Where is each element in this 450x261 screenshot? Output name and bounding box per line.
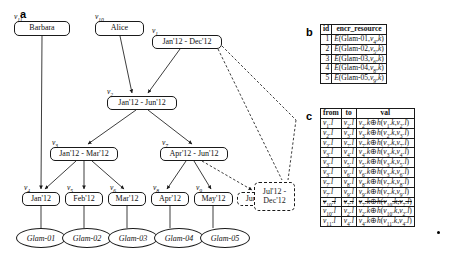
tree-node-v5[interactable]: Feb'12 — [65, 192, 103, 206]
table-row: 5E(Glam-05,v9,k) — [321, 74, 387, 84]
col-header-id: id — [321, 25, 332, 35]
cell-id: 2 — [321, 44, 332, 54]
tree-node-label: Alice — [111, 24, 128, 32]
tree-node-v6[interactable]: Mar'12 — [108, 192, 146, 206]
cell-val: v4.k⊕h(v11.k,v4.l) — [356, 217, 414, 227]
resource-label: Glam-04 — [165, 234, 193, 243]
cell-to: v4.l — [341, 217, 356, 227]
cell-from: v11.l — [321, 217, 342, 227]
tree-node-label: May'12 — [201, 195, 225, 203]
resource-label: Glam-05 — [211, 234, 239, 243]
panel-a-tree: a — [0, 0, 310, 261]
resource-label: Glam-03 — [119, 234, 147, 243]
resource-node-glam-04[interactable]: Glam-04 — [154, 228, 204, 248]
tree-node-vlabel-v11: v11 — [14, 12, 22, 21]
resource-node-glam-01[interactable]: Glam-01 — [16, 228, 66, 248]
tree-node-label: Jan'12 — [31, 195, 51, 203]
cell-encr-resource: E(Glam-05,v9,k) — [332, 74, 386, 84]
tree-node-vlabel-v2: v2 — [107, 87, 113, 96]
table-row: 1E(Glam-01,v4,k) — [321, 34, 387, 44]
tree-node-vlabel-v4: v4 — [24, 183, 30, 192]
tree-node-vlabel-v10: v10 — [95, 12, 104, 21]
resource-node-glam-03[interactable]: Glam-03 — [108, 228, 158, 248]
panel-b-letter: b — [306, 26, 313, 38]
tree-node-vlabel-v8: v8 — [153, 183, 159, 192]
tree-node-label: Jan'12 - Dec'12 — [162, 38, 211, 46]
tree-node-v9[interactable]: May'12 — [194, 192, 233, 206]
tree-node-v2[interactable]: Jan'12 - Jun'12 — [107, 96, 177, 110]
tree-node-v7[interactable]: Apr'12 - Jun'12 — [160, 147, 228, 161]
cell-id: 5 — [321, 74, 332, 84]
tree-node-v1[interactable]: Jan'12 - Dec'12 — [152, 35, 222, 49]
row-marker-bullet — [437, 231, 440, 234]
tree-node-label: Apr'12 - Jun'12 — [169, 150, 218, 158]
resource-label: Glam-01 — [27, 234, 55, 243]
tree-node-vlabel-v1: v1 — [152, 26, 158, 35]
encr-resource-table: id encr_resource 1E(Glam-01,v4,k)2E(Glam… — [320, 24, 387, 84]
tree-node-label: Jul'12 - Dec'12 — [255, 188, 294, 205]
tree-node-barbara[interactable]: Barbara — [14, 21, 70, 36]
tree-node-v8[interactable]: Apr'12 — [151, 192, 189, 206]
table-header-row: id encr_resource — [321, 25, 387, 35]
tree-node-alice[interactable]: Alice — [95, 21, 144, 36]
resource-label: Glam-02 — [73, 234, 101, 243]
tree-node-vlabel-v9: v9 — [196, 183, 202, 192]
resource-node-glam-05[interactable]: Glam-05 — [200, 228, 250, 248]
tree-node-label: Apr'12 — [159, 195, 181, 203]
cell-id: 1 — [321, 34, 332, 44]
tree-node-v3[interactable]: Jan'12 - Mar'12 — [50, 147, 118, 161]
tree-node-vlabel-v5: v5 — [67, 183, 73, 192]
table-row: 2E(Glam-02,v5,k) — [321, 44, 387, 54]
panel-c-letter: c — [306, 110, 312, 122]
token-table: from to val v1.lv2.lv2.k⊕h(v1.k,v2.l)v2.… — [320, 108, 415, 227]
tree-node-vlabel-v3: v3 — [52, 138, 58, 147]
tree-node-vlabel-v7: v7 — [162, 138, 168, 147]
tree-node-label: Jan'12 - Mar'12 — [59, 150, 109, 158]
tree-node-v4[interactable]: Jan'12 — [22, 192, 60, 206]
tree-node-jul-dec12-future[interactable]: Jul'12 - Dec'12 — [254, 182, 295, 211]
tree-node-label: Barbara — [29, 24, 54, 32]
tree-node-label: Jan'12 - Jun'12 — [118, 99, 165, 107]
tree-node-label: Feb'12 — [73, 195, 94, 203]
resource-node-glam-02[interactable]: Glam-02 — [62, 228, 112, 248]
table-row: v11.lv4.lv4.k⊕h(v11.k,v4.l) — [321, 217, 415, 227]
tree-node-label: Mar'12 — [116, 195, 139, 203]
tree-node-vlabel-v6: v6 — [110, 183, 116, 192]
